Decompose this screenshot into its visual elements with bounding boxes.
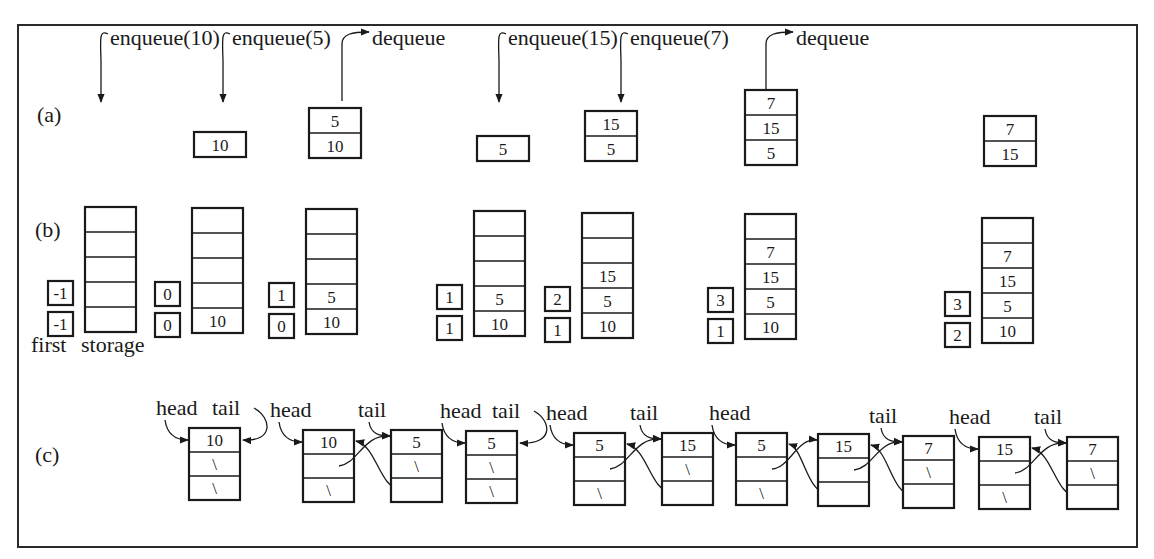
last-index-value: 2 bbox=[553, 290, 562, 309]
node-value: 10 bbox=[206, 431, 223, 450]
cell-value: 10 bbox=[999, 322, 1016, 341]
cell-value: 10 bbox=[599, 317, 616, 336]
last-index-value: 1 bbox=[445, 288, 454, 307]
last-index-value: 3 bbox=[953, 295, 962, 314]
head-pointer-arrow-icon bbox=[550, 425, 573, 445]
enqueue-arrow-icon bbox=[499, 33, 506, 102]
operation-label: enqueue(10) bbox=[110, 25, 220, 50]
array-state-5: 71551031 bbox=[708, 214, 796, 343]
head-label: head bbox=[156, 395, 198, 420]
tail-label: tail bbox=[358, 397, 386, 422]
cell-value: 5 bbox=[499, 140, 508, 159]
array-state-1: 1000 bbox=[155, 208, 243, 337]
array-state-4: 1551021 bbox=[545, 213, 633, 342]
head-label: head bbox=[440, 398, 482, 423]
list-node: 7\ bbox=[903, 436, 954, 508]
tail-pointer-arrow-icon bbox=[640, 425, 661, 439]
node-value: 7 bbox=[1088, 440, 1097, 459]
cell-value: 10 bbox=[209, 312, 226, 331]
node-value: 7 bbox=[924, 439, 933, 458]
linked-list-state-3: headtail5\15\ bbox=[546, 400, 713, 505]
operation-label: enqueue(5) bbox=[232, 25, 331, 50]
node-value: 5 bbox=[595, 436, 604, 455]
node-value: 15 bbox=[996, 440, 1013, 459]
cell-value: 5 bbox=[766, 293, 775, 312]
list-node: 10\ bbox=[303, 430, 354, 502]
list-node: 15 bbox=[818, 434, 869, 506]
list-node: 5\ bbox=[736, 433, 787, 505]
first-index-value: 2 bbox=[953, 326, 962, 345]
list-node: 10\\ bbox=[189, 428, 240, 500]
list-node: 5\\ bbox=[466, 431, 517, 503]
last-index-value: 1 bbox=[277, 286, 286, 305]
list-node: 5\ bbox=[574, 433, 625, 505]
operation-label: enqueue(15) bbox=[508, 25, 618, 50]
array-state-6: 71551032 bbox=[945, 218, 1033, 347]
head-pointer-arrow-icon bbox=[955, 429, 978, 449]
node-next-pointer: \ bbox=[1090, 464, 1095, 483]
last-index-box: 1 bbox=[269, 283, 294, 307]
node-prev-pointer: \ bbox=[1002, 488, 1007, 507]
cell-value: 15 bbox=[999, 272, 1016, 291]
cell-value: 7 bbox=[1003, 247, 1012, 266]
node-next-pointer: \ bbox=[926, 463, 931, 482]
operation-2: dequeue bbox=[342, 25, 445, 101]
first-index-box: 0 bbox=[155, 313, 180, 337]
storage-array: 510 bbox=[306, 209, 357, 334]
cell-value: 15 bbox=[763, 119, 780, 138]
array-state-0: -1-1 bbox=[48, 207, 136, 336]
panel-a-queue-operations: enqueue(10)enqueue(5)dequeueenqueue(15)e… bbox=[101, 25, 1036, 166]
storage-array: 715510 bbox=[982, 218, 1033, 343]
head-label: head bbox=[949, 404, 991, 429]
tail-label: tail bbox=[869, 403, 897, 428]
node-next-pointer: \ bbox=[685, 460, 690, 479]
linked-list-state-4: headtail5\157\ bbox=[709, 400, 954, 508]
head-pointer-arrow-icon bbox=[165, 420, 188, 440]
linked-list-state-0: headtail10\\ bbox=[156, 395, 267, 500]
tail-label: tail bbox=[630, 400, 658, 425]
first-index-value: 1 bbox=[716, 322, 725, 341]
first-label: first bbox=[31, 332, 66, 357]
last-index-value: 0 bbox=[163, 285, 172, 304]
head-pointer-arrow-icon bbox=[279, 422, 302, 442]
tail-pointer-arrow-icon bbox=[520, 411, 547, 443]
cell-value: 15 bbox=[599, 267, 616, 286]
first-index-value: 0 bbox=[277, 317, 286, 336]
head-pointer-arrow-icon bbox=[712, 425, 735, 445]
last-index-value: -1 bbox=[53, 284, 67, 303]
node-value: 5 bbox=[757, 436, 766, 455]
first-index-box: 1 bbox=[708, 319, 733, 343]
queue-state-1: 510 bbox=[309, 108, 361, 158]
head-label: head bbox=[546, 400, 588, 425]
cell-value: 10 bbox=[491, 315, 508, 334]
head-label: head bbox=[709, 400, 751, 425]
storage-array bbox=[85, 207, 136, 332]
last-index-box: 0 bbox=[155, 282, 180, 306]
linked-list-state-1: headtail10\5\ bbox=[270, 397, 442, 502]
node-value: 5 bbox=[487, 434, 496, 453]
storage-array: 715510 bbox=[745, 214, 796, 339]
first-index-box: 0 bbox=[269, 314, 294, 338]
cell-value: 7 bbox=[1006, 120, 1015, 139]
queue-state-2: 5 bbox=[477, 136, 529, 161]
first-index-value: 1 bbox=[445, 319, 454, 338]
node-value: 10 bbox=[320, 433, 337, 452]
node-next-pointer: \ bbox=[414, 457, 419, 476]
operation-label: dequeue bbox=[372, 25, 445, 50]
cell-value: 15 bbox=[762, 268, 779, 287]
tail-label: tail bbox=[212, 395, 240, 420]
enqueue-arrow-icon bbox=[621, 33, 628, 102]
enqueue-arrow-icon bbox=[223, 33, 230, 102]
list-node: 7\ bbox=[1067, 437, 1118, 509]
panel-b-array-implementation: -1-1100051010510111551021715510317155103… bbox=[31, 207, 1033, 357]
first-index-value: 1 bbox=[553, 321, 562, 340]
head-label: head bbox=[270, 397, 312, 422]
node-next-pointer: \ bbox=[489, 458, 494, 477]
operation-3: enqueue(15) bbox=[499, 25, 618, 102]
tail-pointer-arrow-icon bbox=[1045, 429, 1066, 443]
cell-value: 5 bbox=[1003, 297, 1012, 316]
cell-value: 7 bbox=[767, 94, 776, 113]
last-index-box: 3 bbox=[708, 288, 733, 312]
enqueue-arrow-icon bbox=[101, 33, 108, 102]
tail-pointer-arrow-icon bbox=[243, 408, 267, 440]
